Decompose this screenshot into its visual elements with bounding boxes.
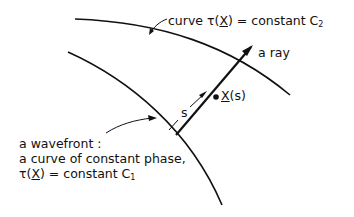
point-x-s <box>213 94 219 100</box>
c2-sub: 2 <box>318 20 323 29</box>
label-wavefront-line3: τ(X) = constant C1 <box>19 167 135 184</box>
label-s: s <box>181 106 188 119</box>
label-ray: a ray <box>258 46 290 59</box>
label-wavefront-line1: a wavefront : <box>19 137 102 150</box>
c2-prefix: curve <box>168 13 207 28</box>
label-wavefront-line2: a curve of constant phase, <box>19 152 186 165</box>
c2-tau: τ( <box>207 13 219 28</box>
label-curve-c2: curve τ(X) = constant C2 <box>168 14 323 31</box>
point-rest: (s) <box>230 88 246 103</box>
c1-tau: τ( <box>19 166 31 181</box>
wavefront-leader-arrowhead-icon <box>148 115 157 121</box>
c1-x: X <box>31 166 40 181</box>
c1-sub: 1 <box>130 173 135 182</box>
point-x: X <box>221 88 230 103</box>
wavefront-leader-arrow <box>106 118 152 133</box>
c2-rest: ) = constant C <box>228 13 318 28</box>
wavefront-diagram <box>0 0 354 217</box>
label-point-x-s: X(s) <box>221 89 246 102</box>
c1-rest: ) = constant C <box>40 166 130 181</box>
c2-x: X <box>219 13 228 28</box>
